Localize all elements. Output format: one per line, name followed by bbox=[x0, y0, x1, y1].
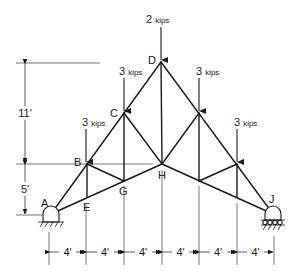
svg-text:3kips: 3kips bbox=[82, 116, 105, 128]
node-label-C: C bbox=[110, 107, 118, 119]
load-value: 3 bbox=[82, 116, 88, 128]
node-label-E: E bbox=[83, 201, 90, 213]
dimension-segment-3: 4' bbox=[125, 245, 161, 258]
dimension-segment-4: 4' bbox=[163, 245, 198, 258]
load-unit: kips bbox=[91, 119, 105, 128]
dimension-label: 4' bbox=[251, 246, 259, 258]
truss-diagram: 11' 5' 2kips 3kips 3kips bbox=[0, 0, 298, 280]
node-label-B: B bbox=[74, 156, 81, 168]
dimension-label: 4' bbox=[139, 246, 147, 258]
node-label-D: D bbox=[148, 54, 156, 66]
dimension-label-5: 5' bbox=[21, 183, 29, 195]
load-value: 3 bbox=[234, 116, 240, 128]
dimension-segment-5: 4' bbox=[200, 245, 236, 258]
dimension-label: 4' bbox=[101, 246, 109, 258]
svg-text:3kips: 3kips bbox=[196, 65, 219, 77]
load-value: 3 bbox=[119, 65, 125, 77]
load-unit: kips bbox=[128, 68, 142, 77]
load-unit: kips bbox=[205, 68, 219, 77]
dimension-11ft: 11' bbox=[12, 64, 38, 163]
dimension-segment-6: 4' bbox=[238, 245, 273, 258]
svg-text:3kips: 3kips bbox=[234, 116, 257, 128]
member-right-diagonal-1 bbox=[162, 113, 199, 164]
bottom-chord-right bbox=[162, 164, 273, 214]
node-label-J: J bbox=[269, 193, 275, 205]
load-unit: kips bbox=[155, 16, 169, 25]
dimension-label: 4' bbox=[63, 246, 71, 258]
top-chord-right bbox=[161, 62, 273, 214]
svg-text:3kips: 3kips bbox=[119, 65, 142, 77]
load-3kips-right-lower: 3kips bbox=[234, 116, 257, 162]
member-DH bbox=[161, 62, 162, 164]
dimension-5ft: 5' bbox=[14, 165, 36, 214]
load-value: 2 bbox=[146, 13, 152, 25]
member-right-diagonal-2 bbox=[199, 164, 237, 181]
horizontal-dimensions: 4' 4' 4' 4' 4' 4' bbox=[50, 245, 273, 258]
load-3kips-right-upper: 3kips bbox=[196, 65, 219, 111]
dimension-segment-2: 4' bbox=[87, 245, 123, 258]
svg-text:2kips: 2kips bbox=[146, 13, 169, 25]
dimension-label: 4' bbox=[214, 246, 222, 258]
bottom-chord-left bbox=[51, 164, 162, 214]
member-CH bbox=[124, 113, 162, 164]
load-unit: kips bbox=[243, 119, 257, 128]
load-2kips-D: 2kips bbox=[146, 13, 169, 60]
dimension-segment-1: 4' bbox=[50, 245, 85, 258]
dimension-label-11: 11' bbox=[18, 107, 32, 119]
top-chord-left bbox=[51, 62, 161, 214]
load-value: 3 bbox=[196, 65, 202, 77]
dimension-label: 4' bbox=[176, 246, 184, 258]
member-BG bbox=[87, 164, 124, 181]
vertical-dimension-extensions bbox=[16, 63, 153, 215]
node-labels: A B C D E G H J bbox=[41, 54, 275, 213]
horizontal-dimension-extensions bbox=[49, 170, 274, 265]
node-label-G: G bbox=[119, 185, 128, 197]
